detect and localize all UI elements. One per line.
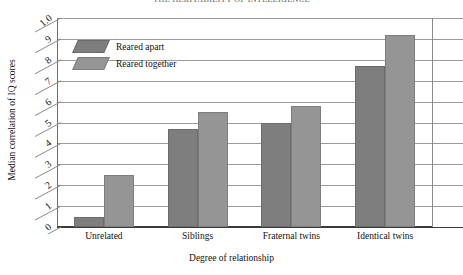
y-axis-tick-label: 6 [43,96,54,108]
plot-right-wall [432,18,433,227]
bar-siblings-together [198,112,228,227]
x-axis-title: Degree of relationship [0,253,463,263]
bar-fraternal-twins-together [291,106,321,227]
y-axis-tick-label: 3 [43,158,54,170]
x-axis-category-labels: UnrelatedSiblingsFraternal twinsIdentica… [57,231,432,247]
legend-swatch-reared-together [72,57,110,70]
x-axis-category-label: Identical twins [357,231,413,241]
x-axis-category-label: Siblings [182,231,213,241]
y-axis-tick-label: 7 [43,75,54,87]
legend-label-reared-together: Reared together [116,59,176,69]
bar-siblings-apart [168,129,198,227]
y-axis-tick-label: 0 [43,221,54,233]
x-axis-category-label: Unrelated [85,231,122,241]
bar-unrelated-together [104,175,134,227]
bar-fraternal-twins-apart [261,123,291,228]
chart-legend: Reared apart Reared together [75,38,225,72]
y-axis-tick-labels: 01234567891.0 [14,0,50,245]
bar-identical-twins-apart [355,66,385,227]
y-axis-tick-label: 1.0 [37,12,54,28]
chart-title: THE HERITABILITY OF INTELLIGENCE [0,0,463,2]
y-axis-tick-label: 1 [43,200,54,212]
legend-item-reared-apart: Reared apart [75,38,225,55]
bar-unrelated-apart [74,217,104,227]
legend-item-reared-together: Reared together [75,55,225,72]
y-axis-tick-label: 9 [43,33,54,45]
chart-container: THE HERITABILITY OF INTELLIGENCE Median … [0,0,463,275]
y-axis-tick-label: 2 [43,179,54,191]
y-axis-tick-label: 8 [43,54,54,66]
x-axis-category-label: Fraternal twins [263,231,320,241]
gridline [57,227,463,228]
y-axis-tick-label: 4 [43,138,54,150]
bar-identical-twins-together [385,35,415,227]
legend-swatch-reared-apart [72,40,110,53]
legend-label-reared-apart: Reared apart [116,42,164,52]
y-axis-tick-label: 5 [43,117,54,129]
